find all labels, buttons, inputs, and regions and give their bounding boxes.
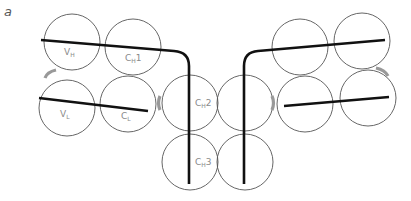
label-vh: VH [64, 47, 75, 58]
label-vl: VL [60, 109, 70, 120]
domain-vl-left [39, 80, 95, 136]
label-cl: CL [121, 111, 131, 122]
light-chain-right [284, 97, 389, 106]
domain-cl-left [100, 76, 156, 132]
label-ch2: CH2 [195, 98, 212, 109]
disulfide-arc-left-vh-vl [45, 70, 56, 78]
antibody-diagram: VH CH1 VL CL CH2 CH3 [0, 0, 411, 201]
disulfide-arc-right-hinge [272, 96, 274, 110]
label-ch3: CH3 [195, 157, 212, 168]
heavy-chain-right [244, 40, 385, 184]
disulfide-arc-left-hinge [159, 96, 161, 110]
label-ch1: CH1 [125, 53, 142, 64]
